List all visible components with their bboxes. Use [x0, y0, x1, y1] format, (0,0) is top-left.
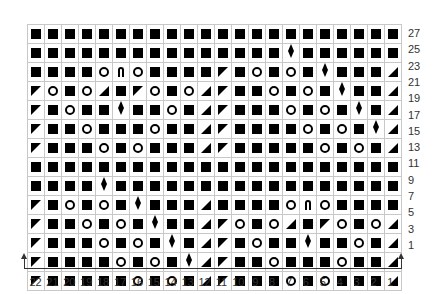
knit-square-icon [65, 162, 75, 172]
knit-square-icon [354, 181, 364, 191]
knit-square-icon [99, 48, 109, 58]
chart-cell [351, 177, 368, 196]
knit-square-icon [116, 29, 126, 39]
knit-square-icon [184, 124, 194, 134]
chart-cell [249, 234, 266, 253]
knit-square-icon [286, 86, 296, 96]
chart-cell [283, 196, 300, 215]
knit-square-icon [31, 162, 41, 172]
chart-cell [62, 234, 79, 253]
chart-cell [385, 25, 402, 44]
chart-cell [79, 120, 96, 139]
chart-row-27 [28, 25, 402, 44]
chart-cell [232, 158, 249, 177]
chart-cell [62, 25, 79, 44]
column-number: 17 [112, 276, 129, 288]
chart-cell [368, 63, 385, 82]
chart-cell [232, 25, 249, 44]
knit-square-icon [184, 200, 194, 210]
chart-cell [317, 215, 334, 234]
column-number: 21 [44, 276, 61, 288]
chart-cell [130, 101, 147, 120]
chart-cell [164, 158, 181, 177]
chart-cell [130, 63, 147, 82]
chart-cell [317, 101, 334, 120]
diamond-leaf-icon [305, 234, 311, 248]
chart-cell [283, 158, 300, 177]
knit-square-icon [184, 181, 194, 191]
ssk-left-triangle-icon [218, 124, 228, 134]
ssk-left-triangle-icon [31, 257, 41, 267]
chart-cell [181, 158, 198, 177]
knit-square-icon [99, 105, 109, 115]
knit-square-icon [286, 238, 296, 248]
column-number: 12 [196, 276, 213, 288]
chart-cell [351, 82, 368, 101]
ssk-left-triangle-icon [31, 219, 41, 229]
chart-cell [266, 139, 283, 158]
chart-row-15 [28, 139, 402, 158]
knit-square-icon [116, 200, 126, 210]
knit-square-icon [235, 257, 245, 267]
k2tog-right-triangle-icon [201, 105, 211, 115]
ssk-left-triangle-icon [218, 257, 228, 267]
chart-cell [147, 158, 164, 177]
chart-cell [249, 63, 266, 82]
chart-cell [300, 196, 317, 215]
yarn-over-circle-icon [354, 238, 364, 248]
yarn-over-circle-icon [337, 219, 347, 229]
bottom-repeat-bracket [24, 268, 402, 269]
yarn-over-circle-icon [252, 238, 262, 248]
yarn-over-circle-icon [269, 86, 279, 96]
chart-cell [79, 139, 96, 158]
chart-cell [28, 139, 45, 158]
knit-square-icon [371, 181, 381, 191]
yarn-over-circle-icon [133, 143, 143, 153]
knit-square-icon [320, 124, 330, 134]
yarn-over-circle-icon [252, 67, 262, 77]
knit-square-icon [133, 257, 143, 267]
chart-cell [334, 101, 351, 120]
chart-cell [198, 63, 215, 82]
chart-cell [45, 44, 62, 63]
knit-square-icon [133, 162, 143, 172]
chart-cell [45, 215, 62, 234]
knit-square-icon [82, 105, 92, 115]
yarn-over-circle-icon [320, 143, 330, 153]
chart-cell [113, 215, 130, 234]
k2tog-right-triangle-icon [201, 143, 211, 153]
knit-square-icon [167, 48, 177, 58]
chart-cell [249, 139, 266, 158]
column-number: 19 [78, 276, 95, 288]
chart-cell [385, 82, 402, 101]
yarn-over-circle-icon [320, 105, 330, 115]
chart-cell [266, 120, 283, 139]
knit-square-icon [65, 48, 75, 58]
chart-cell [368, 25, 385, 44]
knit-square-icon [150, 162, 160, 172]
chart-cell [232, 44, 249, 63]
k2tog-right-triangle-icon [201, 86, 211, 96]
chart-cell [317, 44, 334, 63]
knit-square-icon [388, 200, 398, 210]
chart-cell [317, 120, 334, 139]
knit-square-icon [82, 257, 92, 267]
chart-cell [113, 196, 130, 215]
knit-square-icon [218, 181, 228, 191]
knit-square-icon [201, 29, 211, 39]
chart-cell [215, 196, 232, 215]
knit-square-icon [303, 67, 313, 77]
k2tog-right-triangle-icon [388, 86, 398, 96]
knit-square-icon [167, 257, 177, 267]
chart-cell [249, 82, 266, 101]
chart-cell [45, 139, 62, 158]
chart-cell [351, 158, 368, 177]
knit-square-icon [133, 219, 143, 229]
chart-cell [130, 215, 147, 234]
knit-square-icon [201, 48, 211, 58]
chart-cell [334, 234, 351, 253]
knit-square-icon [82, 200, 92, 210]
knit-square-icon [371, 67, 381, 77]
knit-square-icon [252, 124, 262, 134]
row-number: 21 [408, 76, 420, 88]
